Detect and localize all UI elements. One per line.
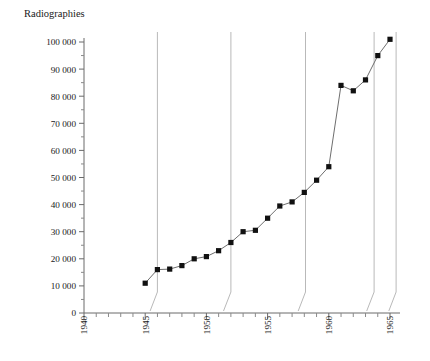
data-point-marker — [387, 37, 392, 42]
x-tick-label: 1955 — [263, 315, 273, 334]
data-point-marker — [302, 190, 307, 195]
data-series — [143, 37, 393, 286]
data-point-marker — [363, 77, 368, 82]
data-point-marker — [204, 254, 209, 259]
data-point-marker — [155, 267, 160, 272]
y-tick-label: 100 000 — [46, 37, 76, 47]
y-tick-label: 30 000 — [51, 227, 77, 237]
series-line-1 — [145, 39, 390, 283]
data-point-marker — [241, 229, 246, 234]
y-tick-label: 70 000 — [51, 119, 77, 129]
y-tick-label: 90 000 — [51, 65, 77, 75]
separator-line-4 — [367, 32, 374, 311]
y-tick-label: 10 000 — [51, 281, 77, 291]
data-point-marker — [143, 281, 148, 286]
data-point-marker — [179, 263, 184, 268]
chart-title: Radiographies — [24, 8, 85, 19]
chart-container: Radiographies 010 00020 00030 00040 0005… — [0, 0, 430, 361]
data-point-marker — [338, 83, 343, 88]
y-tick-label: 60 000 — [51, 146, 77, 156]
data-point-marker — [326, 164, 331, 169]
x-tick-label: 1940 — [79, 315, 89, 334]
separator-line-3 — [298, 32, 305, 311]
radiographies-line-chart: Radiographies 010 00020 00030 00040 0005… — [0, 0, 430, 361]
data-point-marker — [192, 256, 197, 261]
data-point-marker — [228, 240, 233, 245]
x-tick-label: 1965 — [385, 315, 395, 334]
data-point-marker — [290, 199, 295, 204]
y-tick-label: 0 — [71, 308, 76, 318]
data-point-marker — [167, 267, 172, 272]
data-point-marker — [314, 178, 319, 183]
data-point-marker — [216, 248, 221, 253]
data-point-marker — [375, 53, 380, 58]
x-tick-label: 1945 — [141, 315, 151, 334]
separator-line-2 — [224, 32, 231, 311]
data-point-marker — [265, 216, 270, 221]
x-tick-label: 1950 — [202, 315, 212, 334]
y-axis: 010 00020 00030 00040 00050 00060 00070 … — [46, 37, 84, 318]
y-tick-label: 80 000 — [51, 92, 77, 102]
data-point-marker — [253, 228, 258, 233]
x-axis: 194019451950195519601965 — [79, 313, 400, 334]
y-tick-label: 50 000 — [51, 173, 77, 183]
period-separator-lines — [150, 32, 396, 311]
data-point-marker — [277, 203, 282, 208]
x-tick-label: 1960 — [324, 315, 334, 334]
y-tick-label: 20 000 — [51, 254, 77, 264]
data-point-marker — [351, 88, 356, 93]
separator-line-5 — [389, 32, 396, 311]
y-tick-label: 40 000 — [51, 200, 77, 210]
